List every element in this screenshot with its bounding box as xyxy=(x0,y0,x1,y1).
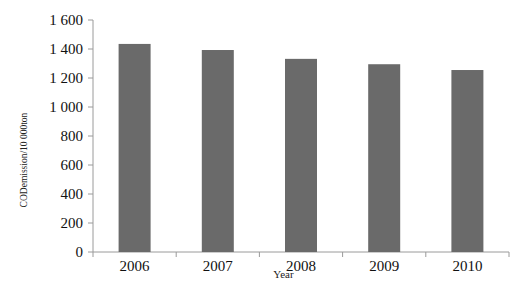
y-tick-label: 1 600 xyxy=(49,12,83,28)
y-tick-label: 600 xyxy=(61,157,84,173)
y-tick-label: 1 000 xyxy=(49,99,83,115)
y-tick-label: 400 xyxy=(61,186,84,202)
y-tick-label: 1 200 xyxy=(49,70,83,86)
x-axis-label: Year xyxy=(0,268,527,280)
bar-2009 xyxy=(368,64,400,252)
bar-2010 xyxy=(451,70,483,252)
y-axis-label: CODemission/10 000ton xyxy=(19,113,29,208)
y-tick-label: 1 400 xyxy=(49,41,83,57)
y-axis-label-container: CODemission/10 000ton xyxy=(16,70,32,250)
chart-canvas: 02004006008001 0001 2001 4001 6002006200… xyxy=(0,0,527,294)
bar-2007 xyxy=(202,50,234,252)
bar-2008 xyxy=(285,59,317,252)
y-tick-label: 200 xyxy=(61,215,84,231)
y-tick-label: 800 xyxy=(61,128,84,144)
y-tick-label: 0 xyxy=(76,244,84,260)
bar-2006 xyxy=(119,44,151,252)
